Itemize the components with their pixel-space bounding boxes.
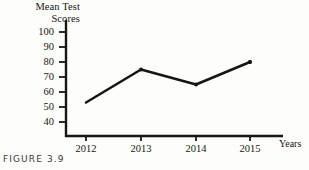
x-tick-label-2014: 2014 xyxy=(179,143,213,154)
data-point-2013 xyxy=(194,83,198,87)
y-tick-label-60: 60 xyxy=(28,86,54,97)
x-axis-title: Years xyxy=(279,138,301,149)
figure-container: Mean Test Scores xyxy=(0,0,309,170)
plot-area: 100 90 80 70 60 50 40 2012 2013 2014 201… xyxy=(0,0,309,150)
data-point-2015 xyxy=(248,60,252,64)
y-tick-label-90: 90 xyxy=(28,41,54,52)
figure-caption: FIGURE 3.9 xyxy=(3,154,65,165)
data-series-line xyxy=(86,62,250,103)
x-tick-label-2012: 2012 xyxy=(69,143,103,154)
y-tick-label-100: 100 xyxy=(28,26,54,37)
x-tick-label-2013: 2013 xyxy=(124,143,158,154)
y-tick-label-50: 50 xyxy=(28,101,54,112)
y-tick-label-40: 40 xyxy=(28,116,54,127)
x-tick-label-2015: 2015 xyxy=(233,143,267,154)
y-tick-label-80: 80 xyxy=(28,56,54,67)
data-point-2012 xyxy=(139,68,143,72)
y-tick-label-70: 70 xyxy=(28,71,54,82)
